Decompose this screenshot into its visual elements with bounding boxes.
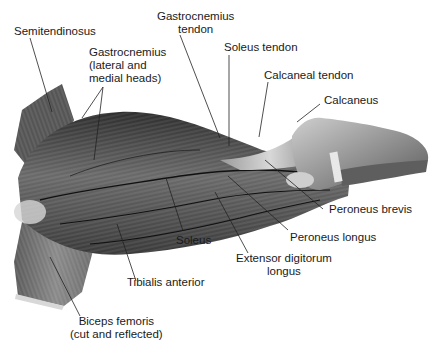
label-soleus: Soleus [176, 234, 211, 247]
label-soleus-tendon: Soleus tendon [224, 41, 298, 54]
label-tibialis-anterior: Tibialis anterior [127, 276, 205, 289]
label-extensor-digitorum-longus: Extensor digitorum longus [236, 252, 332, 278]
foot-shape [286, 118, 428, 190]
label-peroneus-longus: Peroneus longus [290, 231, 376, 244]
label-calcaneal-tendon: Calcaneal tendon [264, 69, 354, 82]
label-semitendinosus: Semitendinosus [14, 25, 96, 38]
label-gastrocnemius-heads: Gastrocnemius (lateral and medial heads) [89, 46, 166, 85]
leg-muscle-illustration [0, 0, 441, 352]
label-biceps-femoris: Biceps femoris (cut and reflected) [70, 315, 163, 341]
label-calcaneus: Calcaneus [324, 94, 378, 107]
label-peroneus-brevis: Peroneus brevis [329, 203, 412, 216]
label-gastrocnemius-tendon: Gastrocnemius tendon [157, 10, 234, 36]
